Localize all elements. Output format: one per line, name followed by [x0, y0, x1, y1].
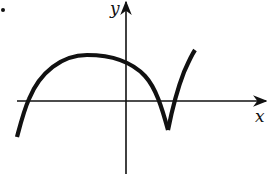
- function-graph: [0, 0, 270, 174]
- y-axis-label: y: [110, 0, 120, 17]
- function-curve-right-branch: [168, 50, 195, 130]
- x-axis-label: x: [255, 108, 265, 125]
- function-curve: [17, 55, 168, 137]
